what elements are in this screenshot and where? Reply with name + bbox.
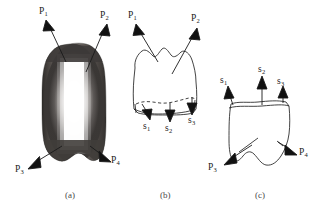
arrowhead-c-s3 — [278, 86, 288, 98]
arrowhead-c-P4 — [285, 145, 297, 155]
panel-c-outline — [229, 101, 290, 165]
label-c-P3: P3 — [208, 162, 217, 172]
panel-c-vectors — [224, 76, 297, 165]
panel-caption-b: (b) — [160, 190, 171, 200]
label-a-P3: P3 — [15, 164, 24, 174]
arrowhead-c-s2 — [257, 76, 267, 89]
panel-c-graphic — [0, 0, 330, 216]
label-b-P2: P2 — [191, 13, 200, 23]
label-c-s3: s3 — [277, 76, 284, 86]
label-b-s3: s3 — [188, 115, 195, 125]
label-b-P1: P1 — [128, 10, 137, 20]
label-a-P4: P4 — [111, 155, 120, 165]
figure-root: P1 P2 P3 P4 P1 P2 s1 s2 s3 s1 s2 s3 P3 P… — [0, 0, 330, 216]
label-c-s2: s2 — [258, 64, 265, 74]
label-c-s1: s1 — [220, 75, 227, 85]
label-a-P2: P2 — [100, 10, 109, 20]
label-b-s2: s2 — [165, 123, 172, 133]
label-c-P4: P4 — [299, 147, 308, 157]
panel-caption-c: (c) — [255, 190, 265, 200]
panel-caption-a: (a) — [65, 190, 75, 200]
label-a-P1: P1 — [39, 6, 48, 16]
arrowhead-c-s1 — [224, 86, 234, 99]
label-b-s1: s1 — [143, 121, 150, 131]
